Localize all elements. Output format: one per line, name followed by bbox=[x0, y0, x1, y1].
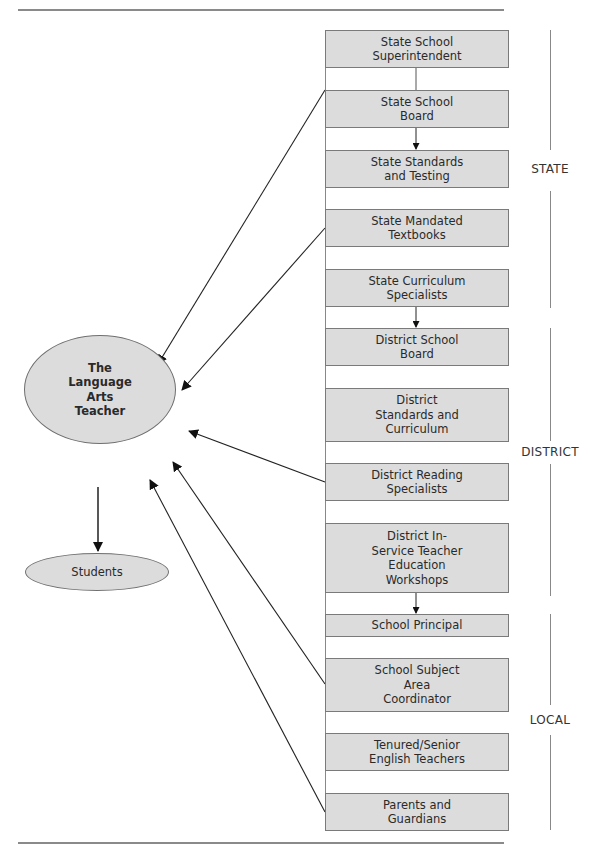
box-district-school-board: District School Board bbox=[325, 328, 509, 366]
level-label-state: STATE bbox=[515, 162, 585, 176]
box-district-standards-and-curriculum: District Standards and Curriculum bbox=[325, 388, 509, 442]
level-label-district: DISTRICT bbox=[515, 445, 585, 459]
box-district-in-service-workshops: District In- Service Teacher Education W… bbox=[325, 523, 509, 593]
box-state-school-superintendent: State School Superintendent bbox=[325, 30, 509, 68]
box-state-standards-and-testing: State Standards and Testing bbox=[325, 150, 509, 188]
box-school-subject-area-coordinator: School Subject Area Coordinator bbox=[325, 658, 509, 712]
box-state-mandated-textbooks: State Mandated Textbooks bbox=[325, 209, 509, 247]
box-state-school-board: State School Board bbox=[325, 90, 509, 128]
level-label-local: LOCAL bbox=[515, 713, 585, 727]
box-state-curriculum-specialists: State Curriculum Specialists bbox=[325, 269, 509, 307]
box-district-reading-specialists: District Reading Specialists bbox=[325, 463, 509, 501]
box-tenured-senior-english-teachers: Tenured/Senior English Teachers bbox=[325, 733, 509, 771]
box-parents-and-guardians: Parents and Guardians bbox=[325, 793, 509, 831]
node-students: Students bbox=[25, 553, 169, 591]
box-school-principal: School Principal bbox=[325, 614, 509, 637]
node-language-arts-teacher: The Language Arts Teacher bbox=[24, 335, 176, 444]
